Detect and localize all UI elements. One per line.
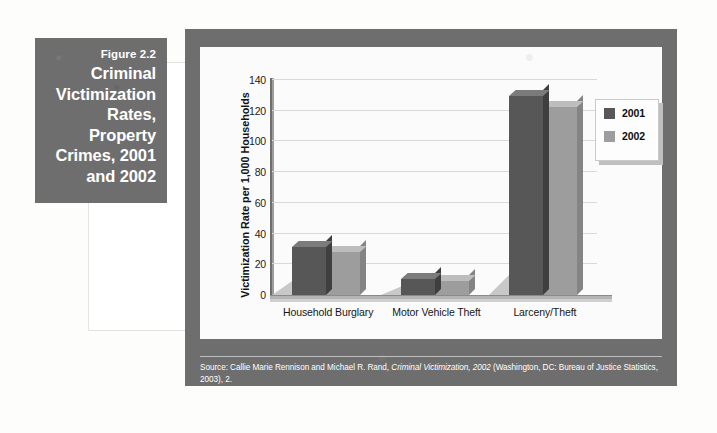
bar-side-face [543,84,549,295]
legend-item-2002: 2002 [604,130,658,142]
y-tick-label: 0 [230,289,266,301]
bar-front-face [509,96,543,295]
figure-title: Criminal Victimization Rates, Property C… [43,63,156,186]
bar-top-face [326,246,367,252]
bar-side-face [469,269,475,295]
scanned-page-background: Figure 2.2 Criminal Victimization Rates,… [0,0,717,433]
figure-caption-box: Figure 2.2 Criminal Victimization Rates,… [35,38,167,203]
figure-frame: Victimization Rate per 1,000 Households … [185,29,677,386]
x-label-household-burglary: Household Burglary [283,306,373,318]
bar-top-face [509,90,550,96]
legend-item-2001: 2001 [604,107,658,119]
bar-2001-motor-vehicle-theft [401,279,435,295]
bar-group [509,80,577,295]
plot-area [272,80,597,295]
legend-swatch-2001 [604,108,615,119]
y-tick-label: 100 [230,135,266,147]
chart-legend: 20012002 [595,99,659,161]
legend-swatch-2002 [604,131,615,142]
figure-number: Figure 2.2 [43,47,156,62]
legend-label-2002: 2002 [622,130,645,142]
source-prefix: Source: Callie Marie Rennison and Michae… [200,363,391,372]
y-tick-label: 120 [230,105,266,117]
bar-group [401,80,469,295]
bar-side-face [577,95,583,295]
x-axis-floor-front [270,299,612,302]
y-axis-tick-labels: 020406080100120140 [226,80,266,295]
x-axis-category-labels: Household BurglaryMotor Vehicle TheftLar… [270,306,615,322]
bar-group [292,80,360,295]
source-divider [200,356,662,357]
y-tick-label: 20 [230,258,266,270]
bar-2001-larceny-theft [509,96,543,295]
chart-canvas: Victimization Rate per 1,000 Households … [200,47,662,339]
y-tick-label: 140 [230,74,266,86]
bar-top-face [401,273,442,279]
x-label-larceny-theft: Larceny/Theft [513,306,576,318]
x-label-motor-vehicle-theft: Motor Vehicle Theft [392,306,480,318]
source-note: Source: Callie Marie Rennison and Michae… [200,362,666,386]
source-title-italic: Criminal Victimization, 2002 [391,363,490,372]
y-tick-label: 80 [230,166,266,178]
bar-front-face [401,279,435,295]
y-tick-label: 60 [230,197,266,209]
bar-front-face [292,247,326,295]
source-line-1: Source: Callie Marie Rennison and Michae… [200,363,658,384]
bar-2001-household-burglary [292,247,326,295]
legend-label-2001: 2001 [622,107,645,119]
y-tick-label: 40 [230,228,266,240]
